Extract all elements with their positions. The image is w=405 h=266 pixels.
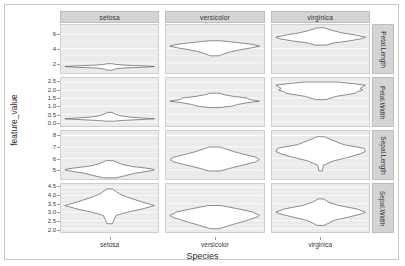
- y-tick-label: 1.5: [48, 95, 56, 101]
- y-tick-label: 2.5: [48, 218, 56, 224]
- x-axis-title: Species: [5, 251, 400, 261]
- column-strip-setosa: setosa: [60, 11, 159, 23]
- facet-row-Sepal.Length: 8765Sepal.Length: [22, 130, 394, 180]
- y-tick-label: 6: [53, 156, 56, 162]
- y-tick-label: 3.0: [48, 209, 56, 215]
- violin-shape: [65, 189, 155, 224]
- violin-shape: [170, 147, 260, 171]
- y-axis-Sepal.Width: 4.54.03.53.02.52.0: [22, 183, 58, 233]
- panel-Petal.Width-versicolor: [165, 77, 264, 127]
- violin-shape: [276, 137, 366, 171]
- row-strip-label: Sepal.Width: [380, 190, 387, 225]
- panel-row: [60, 77, 370, 127]
- row-strip-label: Sepal.Length: [380, 136, 387, 174]
- violin-shape: [170, 93, 260, 107]
- column-strip-virginica: virginica: [271, 11, 370, 23]
- y-tick-label: 7: [53, 144, 56, 150]
- facet-row-Sepal.Width: 4.54.03.53.02.52.0Sepal.Width: [22, 183, 394, 233]
- panel-Sepal.Width-versicolor: [165, 183, 264, 233]
- column-strip-label: versicolor: [200, 14, 230, 21]
- y-tick-label: 6: [53, 31, 56, 37]
- facet-row-Petal.Width: 2.52.01.51.00.50.0Petal.Width: [22, 77, 394, 127]
- panel-row: [60, 183, 370, 233]
- row-strip-Petal.Length: Petal.Length: [372, 24, 394, 74]
- y-axis-Sepal.Length: 8765: [22, 130, 58, 180]
- y-tick-label: 2.0: [48, 87, 56, 93]
- violin-shape: [276, 82, 366, 100]
- row-strip-label: Petal.Length: [380, 31, 387, 68]
- facet-row-Petal.Length: 642Petal.Length: [22, 24, 394, 74]
- y-tick-label: 4: [53, 46, 56, 52]
- panel-Sepal.Width-setosa: [60, 183, 159, 233]
- y-tick-label: 2.5: [48, 78, 56, 84]
- row-strip-Sepal.Length: Sepal.Length: [372, 130, 394, 180]
- y-tick-label: 0.5: [48, 112, 56, 118]
- row-strip-label: Petal.Width: [380, 85, 387, 118]
- violin-shape: [170, 41, 260, 56]
- violin-shape: [276, 28, 366, 45]
- violin-shape: [170, 206, 260, 229]
- panel-row: [60, 130, 370, 180]
- panel-Sepal.Length-virginica: [271, 130, 370, 180]
- facet-grid: setosaversicolorvirginica 642Petal.Lengt…: [22, 11, 394, 237]
- plot-frame: feature_value setosaversicolorvirginica …: [4, 4, 399, 260]
- panel-row: [60, 24, 370, 74]
- y-tick-label: 2.0: [48, 227, 56, 233]
- column-strip-versicolor: versicolor: [165, 11, 264, 23]
- y-tick-label: 5: [53, 167, 56, 173]
- column-strip-label: setosa: [99, 14, 119, 21]
- y-tick-label: 1.0: [48, 103, 56, 109]
- row-strip-Sepal.Width: Sepal.Width: [372, 183, 394, 233]
- panel-Sepal.Length-versicolor: [165, 130, 264, 180]
- violin-shape: [276, 199, 366, 225]
- violin-shape: [65, 64, 155, 70]
- panel-Petal.Length-versicolor: [165, 24, 264, 74]
- y-tick-label: 2: [53, 61, 56, 67]
- panel-Sepal.Width-virginica: [271, 183, 370, 233]
- panel-Petal.Length-virginica: [271, 24, 370, 74]
- y-axis-Petal.Length: 642: [22, 24, 58, 74]
- panel-Petal.Width-setosa: [60, 77, 159, 127]
- column-strips: setosaversicolorvirginica: [60, 11, 370, 23]
- facet-rows: 642Petal.Length2.52.01.51.00.50.0Petal.W…: [22, 24, 394, 236]
- row-strip-Petal.Width: Petal.Width: [372, 77, 394, 127]
- y-axis-title: feature_value: [7, 5, 21, 235]
- y-tick-label: 8: [53, 132, 56, 138]
- y-tick-label: 4.5: [48, 183, 56, 189]
- panel-Petal.Width-virginica: [271, 77, 370, 127]
- panel-Petal.Length-setosa: [60, 24, 159, 74]
- y-tick-label: 4.0: [48, 192, 56, 198]
- column-strip-label: virginica: [307, 14, 333, 21]
- y-axis-Petal.Width: 2.52.01.51.00.50.0: [22, 77, 58, 127]
- y-tick-label: 0.0: [48, 120, 56, 126]
- panel-Sepal.Length-setosa: [60, 130, 159, 180]
- y-tick-label: 3.5: [48, 201, 56, 207]
- violin-shape: [65, 161, 155, 178]
